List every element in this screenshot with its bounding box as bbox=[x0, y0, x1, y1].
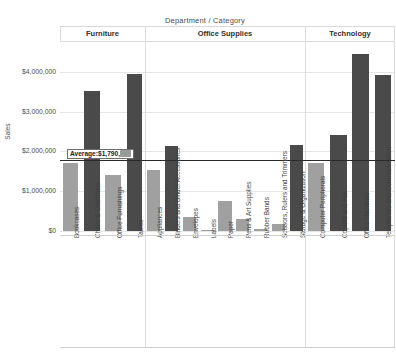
x-axis-bottom-rule bbox=[60, 347, 395, 348]
x-axis-tick-label: Envelopes bbox=[192, 208, 199, 238]
average-reference-label[interactable]: Average: $1,790,282 bbox=[67, 149, 134, 159]
y-axis-tick-label: $4,000,000 bbox=[12, 68, 56, 75]
panel-header-label: Furniture bbox=[86, 29, 119, 38]
header-separator bbox=[60, 26, 61, 42]
x-axis-tick-label: Pens & Art Supplies bbox=[245, 182, 252, 238]
x-axis-tick-label: Scissors, Rulers and Trimmers bbox=[281, 151, 288, 238]
label-separator bbox=[394, 236, 395, 348]
x-axis-top-rule bbox=[60, 235, 395, 236]
panel-header-label: Technology bbox=[329, 29, 371, 38]
panel-header-label: Office Supplies bbox=[198, 29, 253, 38]
y-axis-tick-label: $0 bbox=[12, 227, 56, 234]
x-axis-tick-label: Storage & Organization bbox=[299, 172, 306, 238]
label-separator bbox=[145, 236, 146, 348]
y-axis-tick-label: $2,000,000 bbox=[12, 147, 56, 154]
y-axis-tick-label: $3,000,000 bbox=[12, 108, 56, 115]
x-axis-tick-label: Binders and Binder Accessories bbox=[174, 148, 181, 238]
x-axis-tick-label: Office Machines bbox=[363, 192, 370, 238]
bar-chart: Department / Category Furniture Office S… bbox=[0, 0, 396, 356]
x-axis-tick-label: Appliances bbox=[156, 207, 163, 238]
header-separator bbox=[394, 26, 395, 42]
panel-header-furniture: Furniture bbox=[60, 27, 145, 40]
average-label-prefix: Average: bbox=[70, 150, 98, 157]
x-axis-labels: BookcasesChairs & ChairmatsOffice Furnis… bbox=[60, 236, 395, 354]
x-axis-tick-label: Copiers and Fax bbox=[341, 191, 348, 238]
panel-header-technology: Technology bbox=[305, 27, 395, 40]
column-field-title: Department / Category bbox=[145, 16, 265, 25]
label-separator bbox=[305, 236, 306, 348]
x-axis-tick-label: Rubber Bands bbox=[263, 197, 270, 238]
header-separator bbox=[305, 26, 306, 42]
panel-header-office-supplies: Office Supplies bbox=[145, 27, 305, 40]
header-bottom-rule bbox=[60, 41, 395, 42]
x-axis-tick-label: Computer Peripherals bbox=[319, 176, 326, 238]
header-separator bbox=[145, 26, 146, 42]
average-label-value: $1,790, bbox=[98, 150, 120, 157]
y-axis-tick-label: $1,000,000 bbox=[12, 187, 56, 194]
y-axis-title: Sales bbox=[4, 112, 11, 152]
x-axis-tick-label: Telephones and Communication bbox=[385, 147, 392, 238]
average-label-value-masked: 282 bbox=[120, 150, 131, 157]
x-axis-tick-label: Bookcases bbox=[73, 207, 80, 238]
x-axis-tick-label: Office Furnishings bbox=[116, 187, 123, 238]
x-axis-tick-label: Chairs & Chairmats bbox=[94, 183, 101, 238]
average-reference-line[interactable] bbox=[60, 160, 395, 162]
